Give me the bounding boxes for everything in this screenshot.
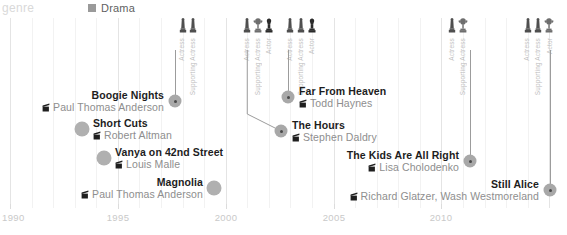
- film-label: The HoursStephen Daldry: [292, 119, 377, 143]
- clapperboard-icon: [350, 190, 358, 202]
- clapperboard-icon: [368, 161, 376, 173]
- film-label: The Kids Are All RightLisa Cholodenko: [347, 149, 459, 173]
- axis-label-1995: 1995: [107, 212, 130, 223]
- film-title: Still Alice: [350, 178, 539, 190]
- clapperboard-icon: [299, 97, 307, 109]
- film-title: The Kids Are All Right: [347, 149, 459, 161]
- film-marker[interactable]: [207, 181, 222, 196]
- axis-label-2000: 2000: [215, 212, 238, 223]
- axis-tick-1990: [10, 204, 11, 209]
- film-director-row: Todd Haynes: [299, 97, 386, 109]
- film-director: Paul Thomas Anderson: [92, 188, 203, 200]
- film-title: Short Cuts: [93, 117, 172, 129]
- film-director-row: Paul Thomas Anderson: [81, 188, 203, 200]
- film-label: Boogie NightsPaul Thomas Anderson: [42, 89, 164, 113]
- axis-tick-2010: [441, 204, 442, 209]
- marker-center-dot: [469, 160, 472, 163]
- axis-label-2005: 2005: [323, 212, 346, 223]
- film-director-row: Paul Thomas Anderson: [42, 101, 164, 113]
- film-marker[interactable]: [544, 184, 557, 197]
- film-label: Still AliceRichard Glatzer, Wash Westmor…: [350, 178, 539, 202]
- clapperboard-icon: [81, 188, 89, 200]
- film-label: MagnoliaPaul Thomas Anderson: [81, 176, 203, 200]
- film-director-row: Lisa Cholodenko: [347, 161, 459, 173]
- film-title: Vanya on 42nd Street: [115, 146, 223, 158]
- axis-label-1990: 1990: [2, 212, 25, 223]
- film-director: Louis Malle: [126, 158, 180, 170]
- film-label: Far From HeavenTodd Haynes: [299, 85, 386, 109]
- connector-line: [550, 50, 551, 190]
- film-director: Lisa Cholodenko: [379, 161, 459, 173]
- film-marker[interactable]: [464, 155, 477, 168]
- film-director-row: Louis Malle: [115, 158, 223, 170]
- film-title: Boogie Nights: [42, 89, 164, 101]
- film-director: Richard Glatzer, Wash Westmoreland: [361, 190, 539, 202]
- axis-tick-2005: [334, 204, 335, 209]
- film-marker[interactable]: [169, 95, 182, 108]
- film-title: Far From Heaven: [299, 85, 386, 97]
- film-director-row: Robert Altman: [93, 129, 172, 141]
- clapperboard-icon: [115, 158, 123, 170]
- marker-center-dot: [287, 96, 290, 99]
- film-marker[interactable]: [282, 91, 295, 104]
- film-label: Vanya on 42nd StreetLouis Malle: [115, 146, 223, 170]
- film-marker[interactable]: [97, 151, 112, 166]
- marker-center-dot: [174, 100, 177, 103]
- axis-tick-2000: [226, 204, 227, 209]
- film-director-row: Stephen Daldry: [292, 131, 377, 143]
- film-director: Todd Haynes: [310, 97, 372, 109]
- connector-line: [470, 50, 471, 161]
- film-title: The Hours: [292, 119, 377, 131]
- film-director: Paul Thomas Anderson: [53, 101, 164, 113]
- timeline-chart: genre Drama ActressSupporting ActressAct…: [0, 0, 567, 235]
- marker-center-dot: [280, 130, 283, 133]
- film-title: Magnolia: [81, 176, 203, 188]
- clapperboard-icon: [93, 129, 101, 141]
- film-director: Stephen Daldry: [303, 131, 377, 143]
- film-director: Robert Altman: [104, 129, 172, 141]
- axis-tick-1995: [118, 204, 119, 209]
- axis-label-2010: 2010: [430, 212, 453, 223]
- marker-center-dot: [549, 189, 552, 192]
- film-label: Short CutsRobert Altman: [93, 117, 172, 141]
- film-marker[interactable]: [275, 125, 288, 138]
- film-marker[interactable]: [75, 122, 90, 137]
- clapperboard-icon: [292, 131, 300, 143]
- film-director-row: Richard Glatzer, Wash Westmoreland: [350, 190, 539, 202]
- clapperboard-icon: [42, 101, 50, 113]
